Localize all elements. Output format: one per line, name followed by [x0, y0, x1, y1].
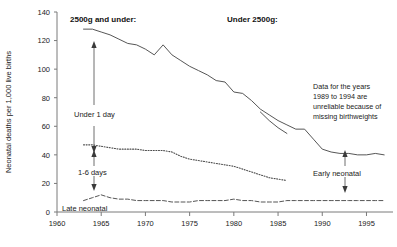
x-tick-label: 1970 [137, 219, 154, 228]
y-tick-label: 120 [37, 36, 50, 45]
y-axis-ticks: 020406080100120140 [37, 8, 57, 217]
note-line-2: 1989 to 1994 are [313, 92, 367, 101]
y-tick-label: 0 [46, 208, 50, 217]
neonatal-mortality-chart: 020406080100120140 196019651970197519801… [0, 0, 397, 247]
y-tick-label: 40 [42, 151, 50, 160]
data-reliability-note: Data for the years 1989 to 1994 are unre… [313, 82, 381, 121]
x-tick-label: 1980 [225, 219, 242, 228]
series-label-under-1-day: Under 1 day [74, 110, 115, 119]
annotation-early-neonatal: Early neonatal [313, 150, 361, 193]
x-tick-label: 1995 [358, 219, 375, 228]
note-line-3: unreliable because of [313, 102, 381, 111]
annotation-under-1-day: Under 1 day [74, 41, 115, 153]
x-tick-label: 1985 [270, 219, 287, 228]
series-label-1-6-days: 1-6 days [78, 168, 107, 177]
chart-canvas: 020406080100120140 196019651970197519801… [0, 0, 397, 247]
note-line-4: missing birthweights [313, 112, 378, 121]
x-tick-label: 1975 [181, 219, 198, 228]
y-tick-label: 60 [42, 122, 50, 131]
note-line-1: Data for the years [313, 82, 371, 91]
footer-strip [0, 241, 397, 247]
series-label-late-neonatal: Late neonatal [62, 204, 108, 213]
x-axis-ticks: 19601965197019751980198519901995 [49, 212, 375, 228]
x-tick-label: 1990 [314, 219, 331, 228]
y-tick-label: 80 [42, 94, 50, 103]
series-line-late-neonatal [84, 195, 385, 202]
y-axis-title: Neonatal deaths per 1,000 live births [4, 51, 13, 173]
y-tick-label: 100 [37, 65, 50, 74]
y-tick-label: 140 [37, 8, 50, 17]
series-label-early-neonatal: Early neonatal [313, 169, 361, 178]
y-tick-label: 20 [42, 179, 50, 188]
annotation-1-6-days: 1-6 days [78, 150, 107, 191]
series-line-1-6-days [84, 145, 287, 181]
heading-2500g-and-under: 2500g and under: [70, 15, 136, 24]
x-tick-label: 1965 [93, 219, 110, 228]
x-tick-label: 1960 [49, 219, 66, 228]
heading-under-2500g: Under 2500g: [227, 15, 278, 24]
